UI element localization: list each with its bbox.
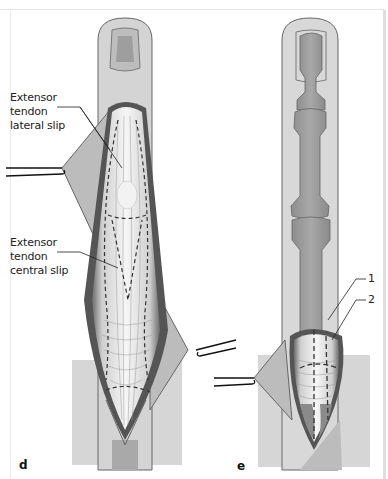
label-extensor-tendon-lateral-slip: Extensor tendon lateral slip xyxy=(10,91,65,133)
label-2: 2 xyxy=(368,293,375,306)
label-extensor-tendon-central-slip: Extensor tendon central slip xyxy=(10,236,68,278)
panel-e-finger xyxy=(214,18,370,470)
panel-letter-d: d xyxy=(19,458,28,472)
figure-frame: Extensor tendon lateral slip Extensor te… xyxy=(0,0,388,479)
label-1: 1 xyxy=(368,272,375,285)
panel-letter-e: e xyxy=(237,459,245,473)
